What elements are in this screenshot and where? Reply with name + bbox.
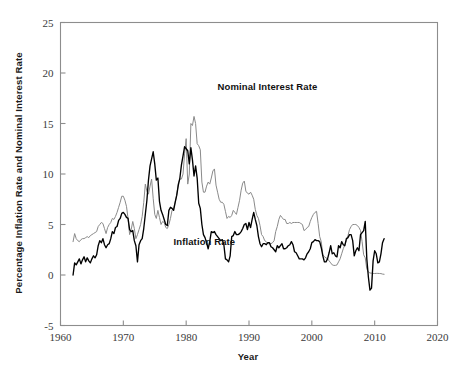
y-axis-title: Percentage Inflation Rate and Nominal In… — [13, 52, 24, 294]
x-tick-label: 1990 — [238, 331, 261, 343]
y-tick-label: 20 — [43, 67, 55, 79]
series-label-inflation-rate: Inflation Rate — [174, 236, 236, 247]
line-chart: Percentage Inflation Rate and Nominal In… — [0, 0, 473, 371]
y-tick-label: 10 — [43, 168, 55, 180]
x-tick-label: 1980 — [175, 331, 198, 343]
y-tick-label: 25 — [43, 17, 55, 29]
x-tick-label: 2000 — [301, 331, 324, 343]
chart-background — [0, 0, 473, 371]
x-axis-title: Year — [238, 351, 259, 362]
chart-figure: Percentage Inflation Rate and Nominal In… — [0, 0, 473, 371]
y-tick-label: 15 — [43, 118, 55, 130]
x-tick-label: 1970 — [112, 331, 135, 343]
x-tick-label: 2020 — [427, 331, 450, 343]
x-tick-label: 2010 — [364, 331, 387, 343]
series-label-nominal-interest-rate: Nominal Interest Rate — [218, 81, 318, 92]
y-tick-label: 0 — [48, 269, 54, 281]
x-tick-label: 1960 — [50, 331, 73, 343]
y-tick-label: 5 — [48, 219, 54, 231]
